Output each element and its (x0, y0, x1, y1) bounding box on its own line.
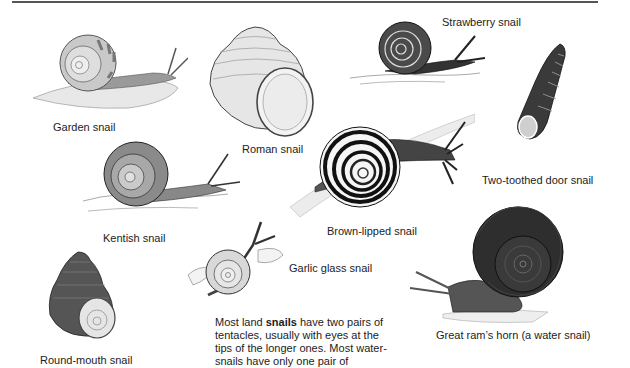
caption-text-start: Most land (215, 316, 266, 328)
label-garden-snail: Garden snail (53, 121, 115, 134)
label-garlic-glass-snail: Garlic glass snail (289, 262, 372, 275)
label-brown-lipped-snail: Brown-lipped snail (327, 225, 417, 238)
garlic-glass-snail-illustration (183, 210, 293, 305)
kentish-snail-illustration (78, 136, 243, 221)
caption-bold-term: snails (266, 316, 297, 328)
great-rams-horn-illustration (408, 202, 568, 327)
two-toothed-door-snail-illustration (510, 42, 570, 142)
label-great-rams-horn: Great ram’s horn (a water snail) (436, 329, 590, 342)
top-rule (12, 1, 598, 3)
caption-paragraph: Most land snails have two pairs of tenta… (215, 316, 395, 368)
label-strawberry-snail: Strawberry snail (442, 16, 521, 29)
garden-snail-illustration (28, 28, 188, 113)
round-mouth-snail-illustration (45, 250, 125, 345)
label-two-toothed-door-snail: Two-toothed door snail (482, 174, 593, 187)
label-round-mouth-snail: Round-mouth snail (40, 354, 132, 367)
strawberry-snail-illustration (345, 18, 485, 93)
label-kentish-snail: Kentish snail (103, 232, 165, 245)
